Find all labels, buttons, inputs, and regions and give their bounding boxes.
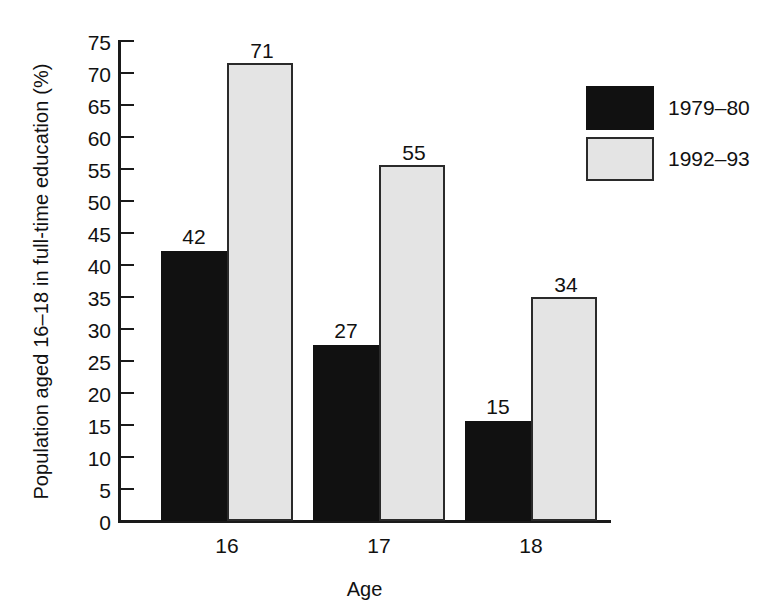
y-tick-label-20: 20 (51, 384, 111, 405)
bar-value-16-1979-80: 42 (161, 226, 227, 247)
bar-value-16-1992-93: 71 (229, 40, 295, 61)
legend-label-1992-93: 1992–93 (668, 147, 750, 171)
bar-18-1992-93[interactable]: 34 (531, 297, 597, 521)
bar-17-1992-93[interactable]: 55 (379, 165, 445, 521)
bar-value-18-1979-80: 15 (465, 396, 531, 417)
x-tick-label-18: 18 (465, 535, 597, 557)
y-tick-label-50: 50 (51, 192, 111, 213)
y-tick-label-5: 5 (51, 480, 111, 501)
bar-17-1979-80[interactable]: 27 (313, 345, 379, 521)
x-axis-title: Age (118, 578, 611, 601)
y-tick-label-45: 45 (51, 224, 111, 245)
y-tick-label-0: 0 (51, 512, 111, 533)
x-tick-label-16: 16 (161, 535, 293, 557)
bar-chart: Population aged 16–18 in full-time educa… (0, 0, 768, 615)
y-tick-label-40: 40 (51, 256, 111, 277)
bar-value-18-1992-93: 34 (533, 274, 599, 295)
bar-value-17-1979-80: 27 (313, 320, 379, 341)
bar-18-1979-80[interactable]: 15 (465, 421, 531, 521)
bar-16-1992-93[interactable]: 71 (227, 63, 293, 521)
x-tick-label-17: 17 (313, 535, 445, 557)
bar-group-17: 27 55 (313, 40, 445, 521)
y-tick-label-25: 25 (51, 352, 111, 373)
legend-swatch-icon-1979-80 (586, 86, 654, 130)
y-tick-label-30: 30 (51, 320, 111, 341)
bar-value-17-1992-93: 55 (381, 142, 447, 163)
y-tick-label-55: 55 (51, 160, 111, 181)
bar-16-1979-80[interactable]: 42 (161, 251, 227, 521)
y-tick-label-65: 65 (51, 96, 111, 117)
y-tick-label-10: 10 (51, 448, 111, 469)
bar-group-18: 15 34 (465, 40, 597, 521)
y-tick-label-70: 70 (51, 64, 111, 85)
y-tick-label-35: 35 (51, 288, 111, 309)
y-tick-label-15: 15 (51, 416, 111, 437)
y-axis-title: Population aged 16–18 in full-time educa… (30, 32, 53, 532)
y-tick-label-75: 75 (51, 32, 111, 53)
legend-swatch-icon-1992-93 (586, 137, 654, 181)
plot-area: 42 71 27 55 15 34 (121, 40, 611, 521)
legend-label-1979-80: 1979–80 (668, 96, 750, 120)
y-tick-label-60: 60 (51, 128, 111, 149)
bar-group-16: 42 71 (161, 40, 293, 521)
